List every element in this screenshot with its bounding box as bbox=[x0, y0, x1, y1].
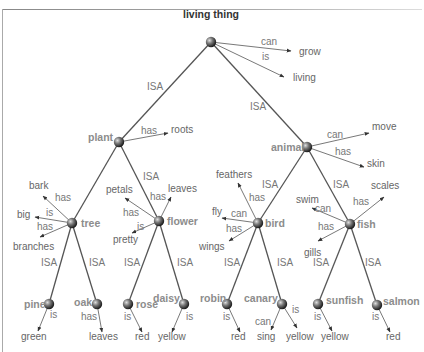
isa-label: ISA bbox=[365, 257, 381, 268]
relation-label: has bbox=[81, 311, 97, 322]
node-label-bird: bird bbox=[265, 217, 285, 229]
relation-label: can bbox=[327, 129, 343, 140]
semantic-network-diagram: ISAISAISAISAISAISAISAISAISAISAISAISAISA … bbox=[0, 0, 424, 352]
property-value-yellow: yellow bbox=[158, 331, 187, 342]
relation-label: is bbox=[50, 309, 57, 320]
node-label-flower: flower bbox=[167, 215, 198, 227]
node-label-pine: pine bbox=[24, 298, 46, 310]
node-label-sunfish: sunfish bbox=[326, 294, 363, 306]
node-label-fish: fish bbox=[357, 218, 376, 230]
relation-label: has bbox=[123, 207, 139, 218]
node-sphere-salmon bbox=[372, 300, 382, 310]
property-value-red: red bbox=[135, 331, 149, 342]
relation-label: has bbox=[335, 146, 351, 157]
relation-label: is bbox=[137, 221, 144, 232]
relation-label: has bbox=[141, 125, 157, 136]
node-sphere-oak bbox=[92, 299, 102, 309]
property-value-yellow: yellow bbox=[286, 331, 315, 342]
property-value-red: red bbox=[386, 331, 400, 342]
relation-label: is bbox=[46, 207, 53, 218]
property-arrow-living_thing-living bbox=[211, 42, 284, 77]
isa-edges: ISAISAISAISAISAISAISAISAISAISAISAISAISA bbox=[41, 42, 381, 305]
property-value-roots: roots bbox=[171, 124, 193, 135]
relation-label: has bbox=[150, 191, 166, 202]
isa-label: ISA bbox=[147, 81, 163, 92]
node-label-tree: tree bbox=[81, 217, 100, 229]
node-sphere-sunfish bbox=[313, 299, 323, 309]
property-value-grow: grow bbox=[299, 46, 321, 57]
node-label-animal: animal bbox=[271, 141, 304, 153]
isa-label: ISA bbox=[143, 171, 159, 182]
property-value-gills: gills bbox=[304, 247, 321, 258]
property-value-big: big bbox=[17, 209, 30, 220]
isa-label: ISA bbox=[224, 257, 240, 268]
node-sphere-flower bbox=[154, 216, 164, 226]
relation-label: is bbox=[223, 311, 230, 322]
isa-label: ISA bbox=[333, 179, 349, 190]
property-value-red: red bbox=[231, 331, 245, 342]
property-value-sing: sing bbox=[257, 331, 275, 342]
relation-label: is bbox=[124, 311, 131, 322]
relation-label: can bbox=[231, 208, 247, 219]
property-value-scales: scales bbox=[371, 180, 399, 191]
relation-label: has bbox=[318, 221, 334, 232]
node-sphere-living_thing bbox=[206, 37, 216, 47]
isa-edge-living_thing-plant bbox=[119, 42, 211, 142]
isa-label: ISA bbox=[89, 257, 105, 268]
relation-label: has bbox=[37, 221, 53, 232]
diagram-frame: ISAISAISAISAISAISAISAISAISAISAISAISAISA … bbox=[0, 0, 424, 352]
relation-label: can bbox=[255, 316, 271, 327]
property-value-swim: swim bbox=[296, 194, 319, 205]
property-value-move: move bbox=[372, 121, 397, 132]
node-label-living_thing: living thing bbox=[183, 8, 239, 20]
isa-label: ISA bbox=[250, 101, 266, 112]
node-label-canary: canary bbox=[244, 292, 278, 304]
node-sphere-plant bbox=[114, 137, 124, 147]
relation-label: has bbox=[226, 223, 242, 234]
property-value-fly: fly bbox=[212, 206, 222, 217]
isa-label: ISA bbox=[124, 257, 140, 268]
property-arrow-living_thing-grow bbox=[211, 42, 291, 51]
property-value-feathers: feathers bbox=[216, 169, 252, 180]
property-value-skin: skin bbox=[367, 158, 385, 169]
property-value-leaves: leaves bbox=[168, 183, 197, 194]
property-value-leaves: leaves bbox=[89, 331, 118, 342]
isa-edge-living_thing-animal bbox=[211, 42, 307, 147]
relation-label: is bbox=[186, 311, 193, 322]
property-value-living: living bbox=[293, 72, 316, 83]
isa-label: ISA bbox=[41, 257, 57, 268]
property-value-wings: wings bbox=[198, 241, 225, 252]
relation-label: is bbox=[372, 311, 379, 322]
relation-label: is bbox=[314, 311, 321, 322]
node-sphere-daisy bbox=[179, 299, 189, 309]
node-label-salmon: salmon bbox=[383, 295, 420, 307]
property-value-bark: bark bbox=[29, 180, 49, 191]
node-sphere-canary bbox=[277, 299, 287, 309]
property-value-petals: petals bbox=[106, 184, 133, 195]
relation-label: is bbox=[292, 304, 299, 315]
node-label-plant: plant bbox=[88, 131, 114, 143]
property-value-branches: branches bbox=[13, 241, 54, 252]
node-sphere-bird bbox=[253, 218, 263, 228]
isa-label: ISA bbox=[313, 257, 329, 268]
relation-label: is bbox=[262, 51, 269, 62]
property-value-yellow: yellow bbox=[321, 331, 350, 342]
property-value-pretty: pretty bbox=[113, 234, 138, 245]
node-sphere-fish bbox=[345, 219, 355, 229]
relation-label: has bbox=[353, 196, 369, 207]
node-label-robin: robin bbox=[200, 292, 226, 304]
isa-label: ISA bbox=[277, 257, 293, 268]
isa-edge-plant-tree bbox=[72, 142, 119, 223]
property-value-green: green bbox=[21, 331, 47, 342]
node-label-oak: oak bbox=[74, 296, 92, 308]
isa-label: ISA bbox=[262, 179, 278, 190]
relation-label: can bbox=[261, 36, 277, 47]
relation-label: has bbox=[55, 192, 71, 203]
node-sphere-tree bbox=[67, 218, 77, 228]
node-sphere-rose bbox=[123, 299, 133, 309]
isa-label: ISA bbox=[177, 257, 193, 268]
node-label-daisy: daisy bbox=[153, 292, 180, 304]
relation-label: has bbox=[249, 192, 265, 203]
